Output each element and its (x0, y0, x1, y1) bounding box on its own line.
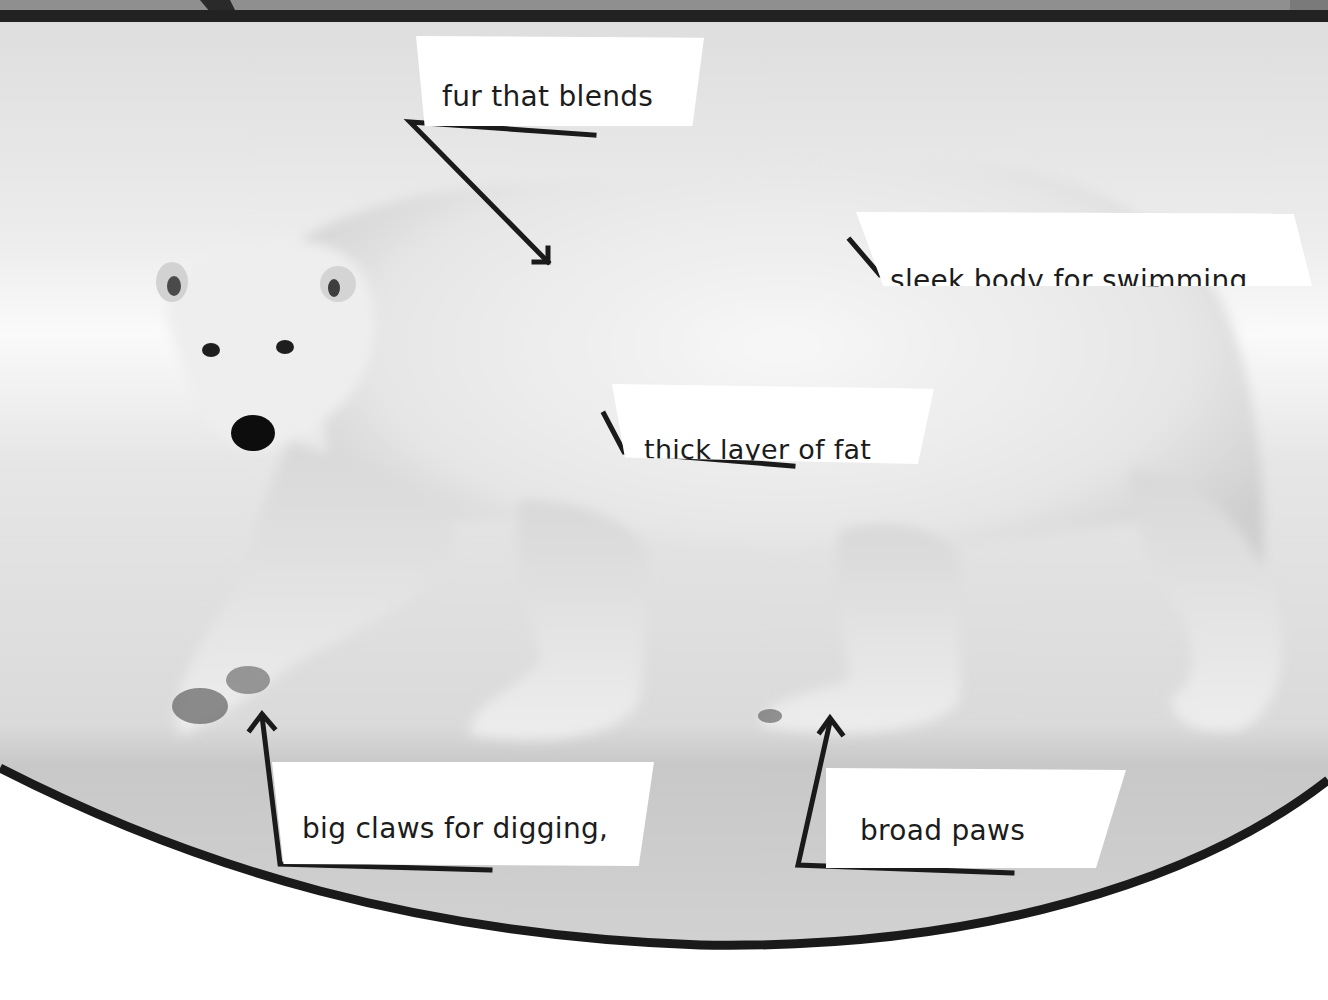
label-fur-blends-habitat: fur that blends in with habitat (416, 36, 704, 126)
photo-background (0, 0, 1328, 1000)
label-sleek-body: sleek body for swimming (856, 212, 1312, 286)
label-thick-fat: thick layer of fat (612, 384, 934, 464)
label-line: broad paws (860, 814, 1126, 848)
top-dark-band (0, 10, 1328, 22)
diagram-page: fur that blends in with habitat sleek bo… (0, 0, 1328, 1000)
label-line: fur that blends (442, 80, 704, 114)
label-line: big claws for digging, (302, 812, 654, 846)
label-broad-paws: broad paws for swimming (826, 768, 1126, 868)
label-big-claws: big claws for digging, tearing, and grip… (272, 762, 654, 866)
